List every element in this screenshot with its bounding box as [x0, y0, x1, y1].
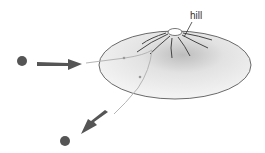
hill-top — [168, 29, 182, 36]
scattering-diagram — [0, 0, 265, 153]
incoming-arrow-icon — [37, 59, 82, 70]
trajectory-marker — [123, 57, 126, 60]
hill-surface — [99, 31, 251, 99]
trajectory-marker — [139, 76, 142, 79]
incoming-particle — [17, 56, 27, 66]
hill-label: hill — [190, 10, 202, 21]
outgoing-particle — [60, 136, 70, 146]
outgoing-arrow-icon — [81, 110, 108, 134]
